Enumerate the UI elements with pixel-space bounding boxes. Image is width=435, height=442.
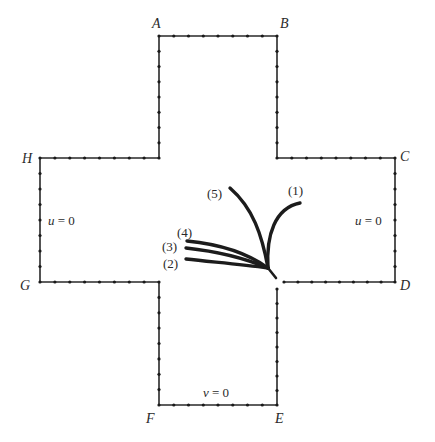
boundary-node [246,403,249,406]
boundary-node [275,331,278,334]
corner-label-d: D [399,278,410,293]
boundary-node [393,156,396,159]
boundary-node [38,234,41,237]
bc-label-bottom: v = 0 [203,385,229,400]
boundary-node [393,172,396,175]
boundary-node [275,80,278,83]
boundary-node [246,34,249,37]
boundary-node [366,280,369,283]
corner-label-b: B [280,16,289,31]
boundary-node [231,34,234,37]
boundary-node [338,280,341,283]
boundary-node [275,156,278,159]
boundary-node [157,342,160,345]
bc-right-rest: = 0 [362,213,382,228]
corner-label-g: G [20,278,30,293]
boundary-node [275,316,278,319]
boundary-node [275,34,278,37]
curve-label-2: (2) [163,256,178,271]
boundary-node [157,156,160,159]
bc-left-rest: = 0 [55,213,75,228]
boundary-node [38,249,41,252]
boundary-node [216,403,219,406]
boundary-node [275,345,278,348]
boundary-node [275,141,278,144]
boundary-node [231,403,234,406]
boundary-node [53,280,56,283]
boundary-node [38,187,41,190]
boundary-node [172,34,175,37]
boundary-node [275,65,278,68]
boundary-node [53,156,56,159]
boundary-node [275,126,278,129]
boundary-node [157,311,160,314]
boundary-node [275,403,278,406]
boundary-node [38,218,41,221]
boundary-node [282,280,285,283]
corner-label-c: C [400,149,410,164]
boundary-node [38,172,41,175]
boundary-node [290,156,293,159]
boundary-node [202,403,205,406]
boundary-node [349,156,352,159]
boundary-node [296,280,299,283]
boundary-node [157,403,160,406]
boundary-node [324,280,327,283]
boundary-node [157,373,160,376]
boundary-node [157,34,160,37]
boundary-node [157,80,160,83]
curve-3 [186,248,268,268]
boundary-node [143,280,146,283]
curve-label-3: (3) [162,239,177,254]
boundary-node [275,389,278,392]
boundary-node [275,95,278,98]
boundary-node [275,360,278,363]
boundary-node [157,50,160,53]
corner-labels: A B C D E F G H [20,16,410,426]
boundary-node [393,203,396,206]
boundary-node [83,280,86,283]
boundary-node [38,265,41,268]
boundary-node [172,403,175,406]
corner-label-a: A [151,16,161,31]
boundary-node [157,65,160,68]
boundary-node [379,156,382,159]
boundary-node [393,280,396,283]
boundary-node [157,126,160,129]
boundary-node [380,280,383,283]
bc-label-left: u = 0 [48,213,75,228]
domain-boundary [40,36,395,405]
boundary-node [68,280,71,283]
boundary-node [38,203,41,206]
corner-label-e: E [274,411,284,426]
boundary-node [352,280,355,283]
curve-tail [268,268,276,278]
curves [186,188,300,278]
boundary-node [275,374,278,377]
boundary-node [305,156,308,159]
boundary-node [393,218,396,221]
boundary-node [157,388,160,391]
boundary-node [157,280,160,283]
boundary-node [393,249,396,252]
curve-1 [268,203,300,268]
boundary-node [187,34,190,37]
curve-label-1: (1) [288,183,303,198]
boundary-node [187,403,190,406]
boundary-node [68,156,71,159]
boundary-node [38,280,41,283]
boundary-node [216,34,219,37]
boundary-node [393,187,396,190]
boundary-node [275,287,278,290]
boundary-node [320,156,323,159]
boundary-node [113,156,116,159]
boundary-node [310,280,313,283]
boundary-node [261,34,264,37]
boundary-condition-labels: u = 0 u = 0 v = 0 [48,213,382,400]
boundary-nodes [38,34,396,406]
boundary-node [364,156,367,159]
cross-domain-diagram: A B C D E F G H u = 0 u = 0 v = 0 (1) (2… [0,0,435,442]
boundary-node [157,141,160,144]
boundary-node [157,327,160,330]
corner-label-f: F [145,411,155,426]
